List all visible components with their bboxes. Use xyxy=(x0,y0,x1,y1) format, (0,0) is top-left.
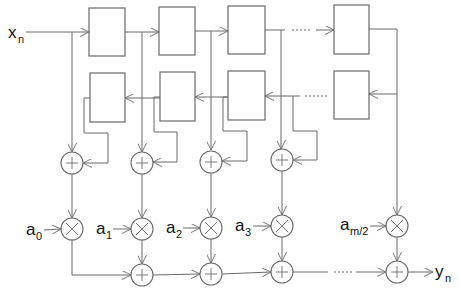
fir-filter-diagram: x n xyxy=(0,0,459,296)
svg-text:0: 0 xyxy=(36,230,42,242)
accumulator-adder-1 xyxy=(131,264,153,286)
output-label: y n xyxy=(435,262,451,284)
forward-delay-2 xyxy=(159,7,195,55)
adder-to-multiplier-lines xyxy=(72,171,282,218)
backward-delay-3 xyxy=(228,71,265,120)
multiplier-1 xyxy=(131,218,153,240)
svg-text:1: 1 xyxy=(106,229,112,241)
svg-text:n: n xyxy=(18,33,24,45)
coefficient-a0: a 0 xyxy=(26,220,61,242)
coefficient-a2: a 2 xyxy=(166,218,200,240)
coefficient-am2: a m/2 xyxy=(340,215,386,237)
svg-text:n: n xyxy=(445,272,451,284)
input-label: x n xyxy=(8,23,24,45)
svg-text:a: a xyxy=(166,218,176,237)
forward-delay-3 xyxy=(228,6,265,54)
pre-adder-4 xyxy=(271,149,293,171)
forward-delay-last xyxy=(334,5,369,54)
accumulator-adder-3 xyxy=(271,261,293,283)
pre-adder-2 xyxy=(131,152,153,174)
svg-text:a: a xyxy=(340,215,350,234)
coefficient-a1: a 1 xyxy=(96,219,131,241)
svg-text:y: y xyxy=(435,262,444,281)
svg-text:2: 2 xyxy=(176,228,182,240)
svg-text:a: a xyxy=(96,219,106,238)
backward-delay-2 xyxy=(160,72,195,121)
svg-text:a: a xyxy=(26,220,36,239)
coefficient-a3: a 3 xyxy=(235,216,271,238)
svg-text:3: 3 xyxy=(245,226,251,238)
backward-delay-last xyxy=(334,71,369,119)
pre-adder-3 xyxy=(200,151,222,173)
svg-text:a: a xyxy=(235,216,245,235)
accumulator-adder-last xyxy=(386,261,408,283)
multiplier-2 xyxy=(200,217,222,239)
multiplier-3 xyxy=(271,215,293,237)
svg-text:m/2: m/2 xyxy=(350,225,368,237)
forward-delay-1 xyxy=(89,8,125,56)
turnaround-line xyxy=(369,29,397,215)
multiplier-0 xyxy=(61,218,83,240)
backward-delay-1 xyxy=(90,73,125,122)
svg-text:x: x xyxy=(8,23,17,42)
accumulator-adder-2 xyxy=(200,263,222,285)
multiplier-last xyxy=(386,215,408,237)
pre-adder-1 xyxy=(61,152,83,174)
multiplier-to-accumulator-lines xyxy=(72,237,397,275)
